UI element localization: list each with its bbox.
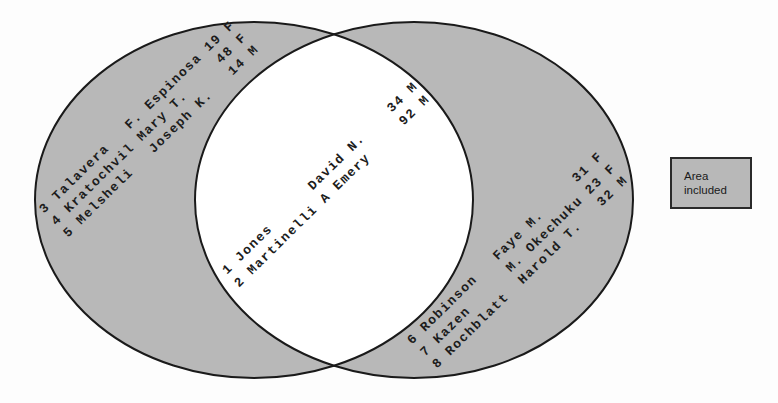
venn-ellipses: [0, 0, 778, 403]
venn-diagram: 3 Talavera F. Espinosa 19 F 4 Kratochvil…: [0, 0, 778, 403]
legend-label-line2: included: [684, 183, 750, 197]
legend-label-line1: Area: [684, 169, 750, 183]
legend-area-included: Area included: [670, 157, 752, 209]
